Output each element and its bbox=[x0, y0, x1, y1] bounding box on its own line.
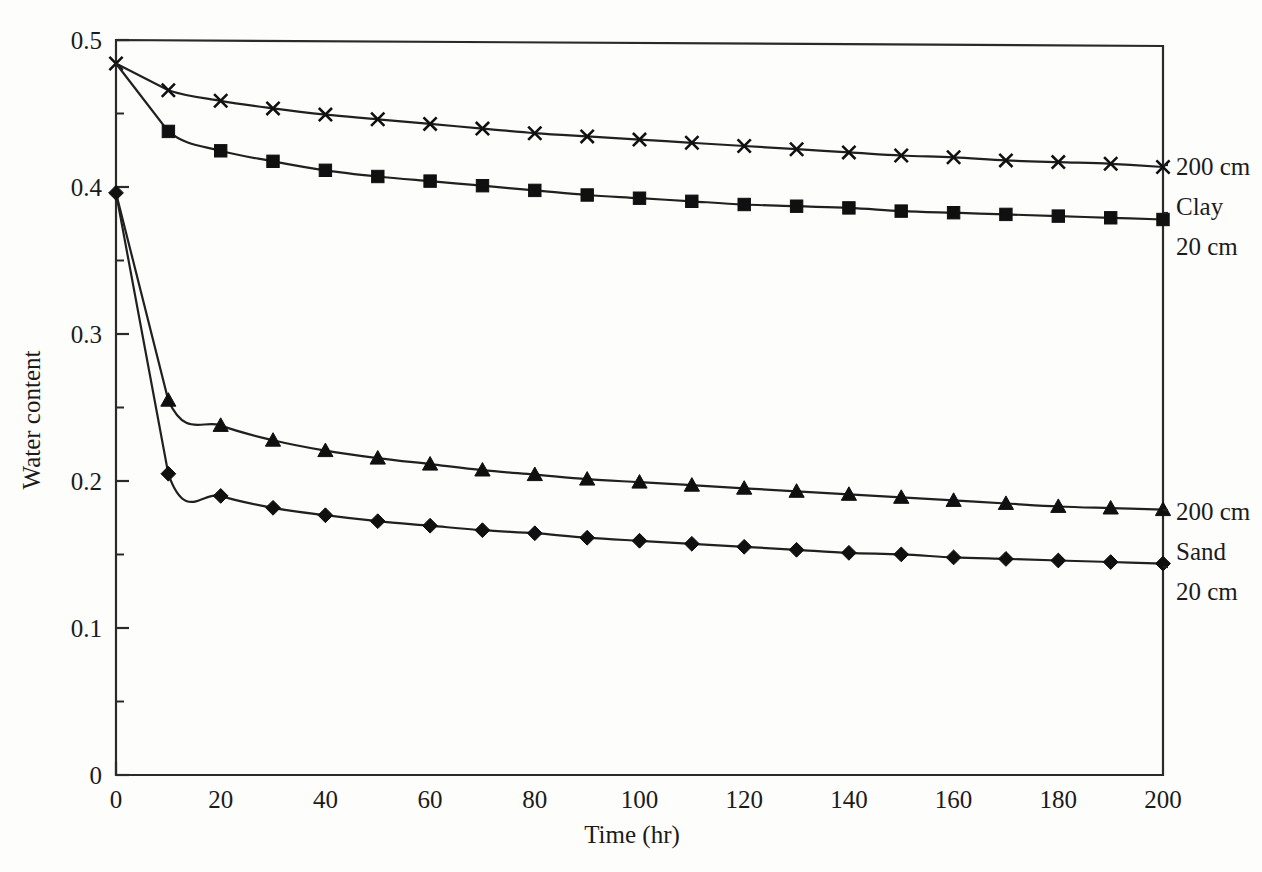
data-point-marker bbox=[999, 552, 1014, 567]
data-point-marker bbox=[684, 536, 699, 551]
y-tick-label: 0.5 bbox=[71, 27, 102, 54]
data-point-marker bbox=[842, 545, 857, 560]
data-point-marker bbox=[1103, 555, 1118, 570]
data-point-marker bbox=[1156, 556, 1171, 571]
data-point-marker bbox=[790, 200, 802, 212]
data-point-marker bbox=[789, 542, 804, 557]
x-tick-label: 20 bbox=[208, 786, 233, 813]
data-point-marker bbox=[895, 205, 907, 217]
data-point-marker bbox=[266, 500, 281, 515]
y-tick-label: 0.4 bbox=[71, 174, 103, 201]
x-tick-label: 120 bbox=[725, 786, 763, 813]
y-tick-label: 0.3 bbox=[71, 321, 102, 348]
axes-frame bbox=[116, 40, 1163, 775]
data-point-marker bbox=[633, 192, 645, 204]
data-point-marker bbox=[1051, 553, 1066, 568]
y-tick-label: 0.1 bbox=[71, 615, 102, 642]
x-tick-label: 80 bbox=[522, 786, 547, 813]
data-point-marker bbox=[424, 175, 436, 187]
data-series-group bbox=[109, 57, 1171, 571]
data-point-marker bbox=[1052, 210, 1064, 222]
x-tick-label: 100 bbox=[621, 786, 659, 813]
data-point-marker bbox=[213, 489, 228, 504]
data-point-marker bbox=[162, 125, 174, 137]
x-tick-label: 60 bbox=[418, 786, 443, 813]
data-point-marker bbox=[737, 539, 752, 554]
clay-group-label: Clay bbox=[1176, 193, 1224, 220]
sand-200cm-label: 200 cm bbox=[1176, 498, 1251, 525]
data-point-marker bbox=[529, 184, 541, 196]
series-line bbox=[116, 193, 1163, 510]
clay-20cm-label: 20 cm bbox=[1176, 233, 1238, 260]
sand-20cm-label: 20 cm bbox=[1176, 578, 1238, 605]
data-point-marker bbox=[686, 195, 698, 207]
x-tick-label: 140 bbox=[830, 786, 868, 813]
y-axis-title: Water content bbox=[18, 351, 45, 490]
series-sand-200-cm bbox=[116, 193, 1171, 516]
x-tick-label: 200 bbox=[1144, 786, 1182, 813]
x-axis-tick-labels: 020406080100120140160180200 bbox=[110, 786, 1182, 813]
data-point-marker bbox=[738, 198, 750, 210]
water-content-vs-time-chart: 020406080100120140160180200 00.10.20.30.… bbox=[0, 0, 1262, 872]
data-point-marker bbox=[319, 164, 331, 176]
y-tick-label: 0.2 bbox=[71, 468, 102, 495]
series-annotations: 200 cm Clay 20 cm 200 cm Sand 20 cm bbox=[1163, 153, 1251, 605]
data-point-marker bbox=[843, 202, 855, 214]
data-point-marker bbox=[894, 547, 909, 562]
data-point-marker bbox=[267, 155, 279, 167]
data-point-marker bbox=[1157, 213, 1169, 225]
x-tick-label: 0 bbox=[110, 786, 123, 813]
data-point-marker bbox=[370, 514, 385, 529]
series-clay-20-cm bbox=[116, 64, 1169, 226]
x-tick-label: 160 bbox=[935, 786, 973, 813]
clay-200cm-label: 200 cm bbox=[1176, 153, 1251, 180]
data-point-marker bbox=[1000, 208, 1012, 220]
plot-frame bbox=[116, 40, 1163, 775]
y-axis-ticks bbox=[116, 40, 129, 775]
data-point-marker bbox=[475, 523, 490, 538]
data-point-marker bbox=[372, 170, 384, 182]
data-point-marker bbox=[1105, 212, 1117, 224]
data-point-marker bbox=[318, 508, 333, 523]
data-point-marker bbox=[632, 533, 647, 548]
x-tick-label: 180 bbox=[1040, 786, 1078, 813]
data-point-marker bbox=[527, 526, 542, 541]
sand-group-label: Sand bbox=[1176, 538, 1227, 565]
y-tick-label: 0 bbox=[90, 762, 103, 789]
data-point-marker bbox=[161, 393, 176, 407]
data-point-marker bbox=[476, 180, 488, 192]
y-axis-tick-labels: 00.10.20.30.40.5 bbox=[71, 27, 103, 789]
data-point-marker bbox=[161, 466, 176, 481]
data-point-marker bbox=[423, 518, 438, 533]
series-line bbox=[116, 64, 1163, 168]
data-point-marker bbox=[581, 189, 593, 201]
data-point-marker bbox=[946, 550, 961, 565]
data-point-marker bbox=[215, 145, 227, 157]
data-point-marker bbox=[947, 207, 959, 219]
series-sand-20-cm bbox=[109, 185, 1171, 571]
x-tick-label: 40 bbox=[313, 786, 338, 813]
x-axis-title: Time (hr) bbox=[584, 821, 680, 849]
data-point-marker bbox=[162, 84, 175, 97]
data-point-marker bbox=[580, 530, 595, 545]
